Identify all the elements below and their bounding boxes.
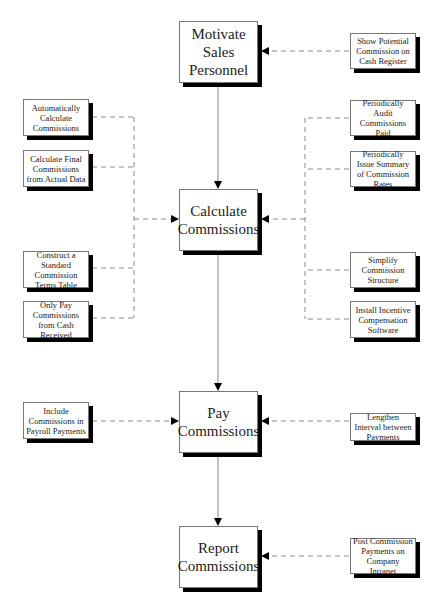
improvement-box: Lengthen Interval between Payments (350, 413, 416, 441)
improvement-box: Automatically Calculate Commissions (23, 99, 89, 136)
improvement-label: Periodically Issue Summary of Commission… (353, 149, 413, 189)
improvement-label: Only Pay Commissions from Cash Received (26, 300, 86, 340)
process-label: Pay Commissions (178, 404, 260, 440)
improvement-box: Calculate Final Commissions from Actual … (23, 150, 89, 187)
improvement-box: Only Pay Commissions from Cash Received (23, 301, 89, 338)
improvement-label: Lengthen Interval between Payments (353, 412, 413, 442)
improvement-label: Periodically Audit Commissions Paid (353, 98, 413, 138)
improvement-box: Show Potential Commission on Cash Regist… (350, 33, 416, 69)
process-box-pay: Pay Commissions (179, 391, 258, 453)
improvement-box: Periodically Audit Commissions Paid (350, 100, 416, 136)
improvement-label: Show Potential Commission on Cash Regist… (353, 36, 413, 66)
process-label: Motivate Sales Personnel (184, 25, 253, 79)
improvement-box: Post Commission Payments on Company Intr… (350, 538, 416, 574)
improvement-box: Include Commissions in Payroll Payments (23, 402, 89, 439)
process-label: Report Commissions (178, 539, 260, 575)
improvement-box: Construct a Standard Commission Terms Ta… (23, 251, 89, 288)
improvement-label: Automatically Calculate Commissions (26, 103, 86, 133)
improvement-box: Periodically Issue Summary of Commission… (350, 151, 416, 187)
improvement-box: Simplify Commission Structure (350, 252, 416, 288)
improvement-label: Simplify Commission Structure (353, 255, 413, 285)
process-label: Calculate Commissions (178, 202, 260, 238)
process-box-report: Report Commissions (179, 526, 258, 588)
improvement-label: Post Commission Payments on Company Intr… (353, 536, 413, 576)
improvement-label: Construct a Standard Commission Terms Ta… (26, 250, 86, 290)
process-box-motivate: Motivate Sales Personnel (179, 21, 258, 83)
improvement-box: Install Incentive Compensation Software (350, 301, 416, 338)
process-box-calculate: Calculate Commissions (179, 189, 258, 251)
improvement-label: Calculate Final Commissions from Actual … (26, 154, 86, 184)
improvement-label: Install Incentive Compensation Software (353, 305, 413, 335)
improvement-label: Include Commissions in Payroll Payments (26, 406, 86, 436)
